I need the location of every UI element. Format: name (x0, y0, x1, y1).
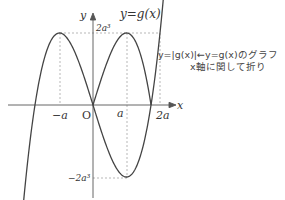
tick-2a: 2a (156, 110, 170, 121)
tick-neg-a: −a (52, 110, 68, 121)
graph-canvas (0, 0, 285, 200)
tick-a: a (117, 108, 124, 119)
tick-neg-2a-cubed: −2a³ (68, 174, 90, 183)
curve-abs-g (93, 33, 151, 105)
graph-figure: y x y=g(x) O −a a 2a 2a³ −2a³ y=|g(x)|←y… (0, 0, 285, 200)
curve-label: y=g(x) (120, 8, 161, 20)
tick-2a-cubed: 2a³ (96, 24, 111, 33)
origin-label: O (82, 110, 91, 121)
y-axis-label: y (80, 10, 86, 21)
curve-g (24, 0, 164, 200)
x-axis-label: x (177, 100, 183, 111)
annotation-line-2: x軸に関して折り (190, 62, 266, 73)
annotation-line-1: y=|g(x)|←y=g(x)のグラフ (158, 50, 278, 61)
